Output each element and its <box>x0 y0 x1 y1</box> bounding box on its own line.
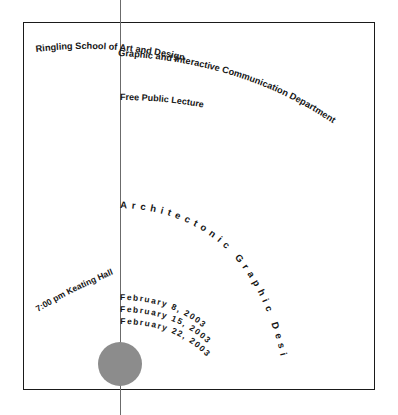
curved-text-layer: Ringling School of Art and Design Graphi… <box>0 0 398 415</box>
department-name-text: Graphic and Interactive Communication De… <box>118 48 337 125</box>
admission-note: Free Public Lecture <box>120 92 205 110</box>
venue-time: 7:00 pm Keating Hall <box>34 267 115 314</box>
venue-time-text: 7:00 pm Keating Hall <box>34 267 115 314</box>
admission-note-text: Free Public Lecture <box>120 92 205 110</box>
department-name: Graphic and Interactive Communication De… <box>118 48 337 125</box>
poster-canvas: Ringling School of Art and Design Graphi… <box>0 0 398 415</box>
